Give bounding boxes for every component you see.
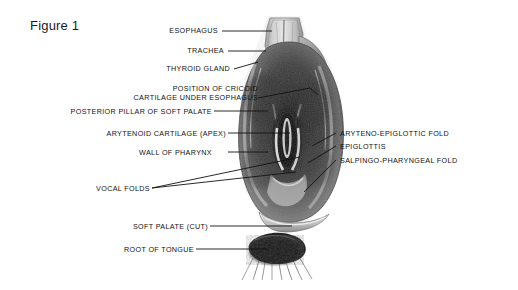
label-root-of-tongue: ROOT OF TONGUE xyxy=(124,245,194,254)
label-thyroid-gland-line1: THYROID GLAND xyxy=(166,64,230,73)
figure-container: Figure 1 xyxy=(0,0,518,290)
leader-thyroid-gland xyxy=(234,62,258,69)
label-esophagus-line1: ESOPHAGUS xyxy=(169,26,218,35)
label-posterior-pillar: POSTERIOR PILLAR OF SOFT PALATE xyxy=(71,107,212,116)
leader-salpingo-pharyngeal-fold xyxy=(304,160,336,192)
label-salpingo-pharyngeal-fold: SALPINGO-PHARYNGEAL FOLD xyxy=(340,156,457,165)
label-aryteno-epiglottic-fold-text: ARYTENO-EPIGLOTTIC FOLD xyxy=(340,129,449,138)
leader-vocal-folds-a xyxy=(152,157,300,188)
leader-cricoid xyxy=(258,88,310,98)
leader-vocal-folds-b xyxy=(152,172,296,188)
label-arytenoid-line1: ARYTENOID CARTILAGE (APEX) xyxy=(107,129,226,138)
leader-epiglottis xyxy=(308,146,336,163)
label-soft-palate-cut-line1: SOFT PALATE (CUT) xyxy=(133,222,208,231)
label-soft-palate-cut: SOFT PALATE (CUT) xyxy=(133,222,208,231)
label-trachea: TRACHEA xyxy=(187,46,224,55)
label-root-of-tongue-line1: ROOT OF TONGUE xyxy=(124,245,194,254)
label-thyroid-gland: THYROID GLAND xyxy=(166,64,230,73)
label-cricoid-line2: CARTILAGE UNDER ESOPHAGUS xyxy=(134,93,258,102)
label-aryteno-epiglottic-fold: ARYTENO-EPIGLOTTIC FOLD xyxy=(340,129,449,138)
label-arytenoid: ARYTENOID CARTILAGE (APEX) xyxy=(107,129,226,138)
label-esophagus: ESOPHAGUS xyxy=(169,26,218,35)
label-wall-of-pharynx-line1: WALL OF PHARYNX xyxy=(139,148,212,157)
label-cricoid-line1: POSITION OF CRICOID xyxy=(134,84,258,93)
leader-lines xyxy=(0,0,518,290)
label-trachea-line1: TRACHEA xyxy=(187,46,224,55)
label-cricoid: POSITION OF CRICOID CARTILAGE UNDER ESOP… xyxy=(134,84,258,102)
label-epiglottis: EPIGLOTTIS xyxy=(340,142,386,151)
label-vocal-folds-line1: VOCAL FOLDS xyxy=(96,184,150,193)
leader-cricoid-tick xyxy=(310,88,318,95)
label-salpingo-pharyngeal-fold-text: SALPINGO-PHARYNGEAL FOLD xyxy=(340,156,457,165)
label-posterior-pillar-line1: POSTERIOR PILLAR OF SOFT PALATE xyxy=(71,107,212,116)
label-vocal-folds: VOCAL FOLDS xyxy=(96,184,150,193)
label-epiglottis-text: EPIGLOTTIS xyxy=(340,142,386,151)
label-wall-of-pharynx: WALL OF PHARYNX xyxy=(139,148,212,157)
leader-aryteno-epiglottic-fold xyxy=(312,133,336,146)
